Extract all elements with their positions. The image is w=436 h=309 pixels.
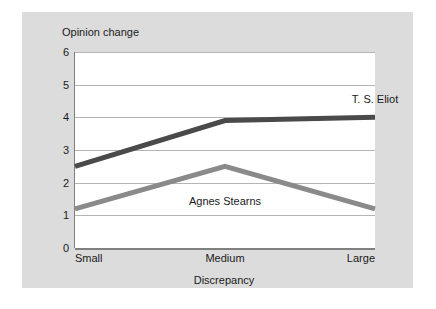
y-tick-label-1: 1 — [63, 210, 69, 221]
series-label-t-s-eliot: T. S. Eliot — [352, 94, 398, 105]
series-label-agnes-stearns: Agnes Stearns — [189, 195, 261, 206]
x-tick-label-medium: Medium — [205, 253, 244, 264]
x-tick-label-small: Small — [75, 253, 103, 264]
y-axis-title: Opinion change — [62, 26, 139, 38]
x-axis-title: Discrepancy — [74, 274, 374, 286]
series-lines — [75, 52, 375, 248]
y-tick-label-6: 6 — [63, 47, 69, 58]
y-tick-label-2: 2 — [63, 177, 69, 188]
x-tick-label-large: Large — [347, 253, 375, 264]
y-tick-label-3: 3 — [63, 145, 69, 156]
plot-area: 0123456 SmallMediumLarge T. S. EliotAgne… — [74, 52, 375, 248]
chart-figure: Opinion change 0123456 SmallMediumLarge … — [22, 12, 413, 288]
y-tick-label-0: 0 — [63, 243, 69, 254]
gridline-0 — [75, 248, 375, 250]
y-tick-label-5: 5 — [63, 79, 69, 90]
series-line-t-s-eliot — [75, 117, 375, 166]
y-tick-label-4: 4 — [63, 112, 69, 123]
